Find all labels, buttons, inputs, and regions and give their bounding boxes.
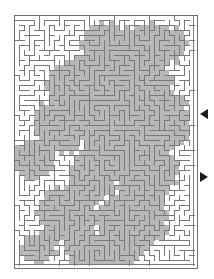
maze-svg — [14, 15, 198, 269]
exit-arrow-icon — [200, 172, 208, 182]
maze-canvas[interactable] — [14, 15, 198, 269]
maze-figure — [0, 0, 214, 279]
entrance-arrow-icon — [200, 109, 208, 119]
